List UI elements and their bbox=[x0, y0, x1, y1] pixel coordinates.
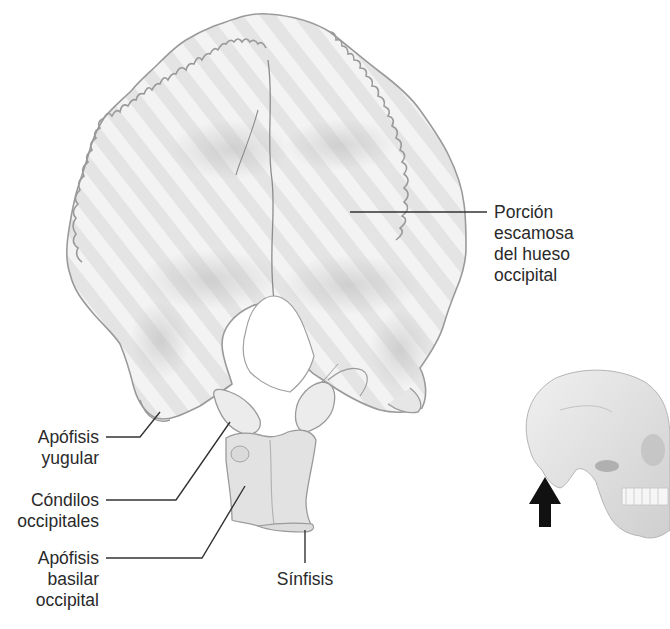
label-line: Porción bbox=[494, 202, 574, 223]
label-condilos-occipitales: Cóndilos occipitales bbox=[17, 490, 99, 532]
occipital-bone-diagram: Porción escamosa del hueso occipital Apó… bbox=[0, 0, 670, 629]
label-line: occipital bbox=[494, 265, 574, 286]
label-apofisis-yugular: Apófisis yugular bbox=[38, 427, 99, 469]
label-line: basilar bbox=[36, 569, 99, 590]
occipital-bone-illustration bbox=[0, 0, 670, 629]
label-line: occipitales bbox=[17, 511, 99, 532]
label-apofisis-basilar: Apófisis basilar occipital bbox=[36, 548, 99, 611]
label-line: yugular bbox=[38, 448, 99, 469]
label-line: del hueso bbox=[494, 244, 574, 265]
label-line: Sínfisis bbox=[266, 569, 344, 590]
label-porcion-escamosa: Porción escamosa del hueso occipital bbox=[494, 202, 574, 286]
leader-condilos bbox=[106, 422, 230, 500]
label-sinfisis: Sínfisis bbox=[266, 569, 344, 590]
label-line: occipital bbox=[36, 590, 99, 611]
basilar-process bbox=[226, 430, 316, 532]
label-line: Cóndilos bbox=[17, 490, 99, 511]
leader-apofisis-basilar bbox=[106, 486, 245, 558]
label-line: Apófisis bbox=[38, 427, 99, 448]
label-line: escamosa bbox=[494, 223, 574, 244]
label-line: Apófisis bbox=[36, 548, 99, 569]
